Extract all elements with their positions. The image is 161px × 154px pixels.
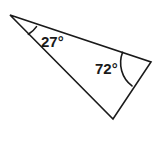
- triangle-diagram: 27° 72°: [0, 0, 161, 154]
- angle-label-left: 27°: [41, 33, 64, 50]
- triangle-figure: 27° 72°: [0, 0, 161, 154]
- angle-label-right: 72°: [95, 60, 118, 77]
- figure-background: [0, 0, 161, 154]
